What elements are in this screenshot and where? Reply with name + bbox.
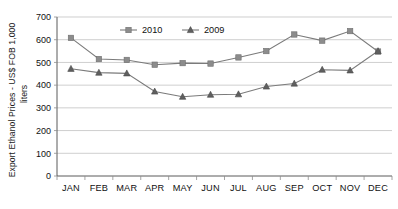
data-point-2009-SEP (291, 80, 297, 86)
data-point-2010-MAY (180, 60, 185, 65)
y-axis-tick-label: 0 (46, 171, 51, 181)
x-axis-tick-label: FEB (90, 183, 108, 193)
series-line-2009 (71, 51, 378, 97)
legend-label-2009: 2009 (204, 25, 224, 35)
x-axis-tick-label: AUG (256, 183, 277, 193)
data-point-2010-JUN (208, 61, 213, 66)
x-axis-tick-label: SEP (285, 183, 304, 193)
data-point-2010-FEB (96, 56, 101, 61)
x-axis-tick-label: NOV (340, 183, 361, 193)
x-axis-tick-label: MAR (116, 183, 137, 193)
gridlines-group (57, 17, 392, 176)
x-axis-tick-label: MAY (173, 183, 193, 193)
y-axis-tick-label: 300 (36, 103, 51, 113)
data-point-2010-SEP (292, 32, 297, 37)
data-point-2010-APR (152, 62, 157, 67)
data-point-2010-MAR (124, 57, 129, 62)
y-axis-ticks-group: 7006005004003002001000 (36, 12, 57, 181)
data-point-2009-APR (152, 88, 158, 94)
ethanol-price-line-chart: Export Ethanol Prices - US$ FOB 1,000 li… (0, 0, 398, 209)
y-axis-tick-label: 200 (36, 126, 51, 136)
legend-group: 20102009 (120, 25, 224, 35)
x-axis-tick-label: JAN (62, 183, 80, 193)
x-axis-ticks-group: JANFEBMARAPRMAYJUNJULAUGSEPOCTNOVDEC (57, 176, 392, 193)
legend-label-2010: 2010 (142, 25, 162, 35)
x-axis-tick-label: JUL (230, 183, 247, 193)
data-point-2009-JAN (68, 65, 74, 71)
data-series-group (68, 28, 381, 99)
y-axis-tick-label: 100 (36, 149, 51, 159)
x-axis-tick-label: APR (145, 183, 165, 193)
data-point-2010-OCT (320, 38, 325, 43)
x-axis-tick-label: JUN (201, 183, 219, 193)
chart-canvas: 7006005004003002001000 JANFEBMARAPRMAYJU… (0, 0, 398, 209)
y-axis-tick-label: 700 (36, 12, 51, 22)
legend-marker-2010 (126, 27, 131, 32)
data-point-2010-AUG (264, 48, 269, 53)
x-axis-tick-label: DEC (368, 183, 388, 193)
data-point-2010-JAN (68, 35, 73, 40)
y-axis-tick-label: 400 (36, 80, 51, 90)
data-point-2010-JUL (236, 55, 241, 60)
y-axis-tick-label: 500 (36, 58, 51, 68)
x-axis-tick-label: OCT (312, 183, 332, 193)
series-line-2010 (71, 31, 378, 65)
data-point-2010-NOV (347, 28, 352, 33)
y-axis-tick-label: 600 (36, 35, 51, 45)
